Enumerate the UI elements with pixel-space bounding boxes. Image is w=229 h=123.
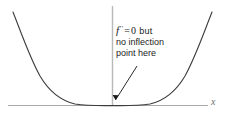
annotation-conjunction: but	[139, 26, 152, 36]
annotation-text-block: f''=0 but no inflection point here	[116, 23, 198, 59]
annotation-line-2: no inflection	[116, 37, 198, 48]
x-axis-label: x	[211, 96, 215, 107]
annotation-line-3: point here	[116, 48, 198, 59]
annotation-value: 0	[131, 25, 136, 36]
annotation-arrow	[113, 66, 137, 100]
inflection-point-figure: f''=0 but no inflection point here x	[0, 0, 229, 123]
plot-area	[0, 0, 229, 123]
annotation-formula: f''=0 but	[116, 23, 198, 37]
equals-sign: =	[123, 25, 131, 36]
